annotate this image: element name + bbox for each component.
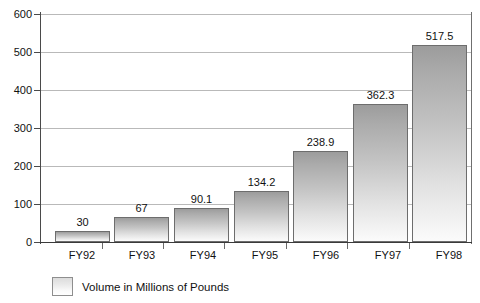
chart-legend: Volume in Millions of Pounds bbox=[52, 277, 229, 296]
y-axis-label-500: 500 bbox=[0, 47, 32, 58]
gridline-500 bbox=[41, 52, 471, 53]
bar-FY93[interactable] bbox=[114, 217, 169, 243]
y-axis-label-200: 200 bbox=[0, 161, 32, 172]
x-axis-label-FY98: FY98 bbox=[421, 249, 477, 261]
bar-value-FY93: 67 bbox=[114, 203, 169, 214]
bar-FY94[interactable] bbox=[174, 208, 229, 242]
y-axis-label-100: 100 bbox=[0, 199, 32, 210]
x-axis-label-FY94: FY94 bbox=[175, 249, 231, 261]
y-axis-label-0: 0 bbox=[0, 237, 32, 248]
legend-swatch-volume bbox=[52, 277, 73, 296]
bar-FY95[interactable] bbox=[234, 191, 289, 242]
y-axis-line bbox=[40, 12, 41, 244]
y-axis-label-400: 400 bbox=[0, 85, 32, 96]
x-axis-label-FY97: FY97 bbox=[360, 249, 416, 261]
x-axis-label-FY96: FY96 bbox=[298, 249, 354, 261]
plot-area bbox=[41, 14, 471, 242]
bar-value-FY97: 362.3 bbox=[353, 90, 408, 101]
x-axis-label-FY92: FY92 bbox=[54, 249, 110, 261]
legend-label-volume: Volume in Millions of Pounds bbox=[82, 281, 229, 293]
y-axis-line-right bbox=[471, 12, 472, 244]
gridline-600 bbox=[41, 14, 471, 15]
bar-FY96[interactable] bbox=[293, 151, 348, 242]
bar-chart: 600 500 400 300 200 100 0 30 67 90.1 134… bbox=[0, 0, 480, 303]
y-axis-label-300: 300 bbox=[0, 123, 32, 134]
x-axis-line bbox=[40, 242, 472, 243]
y-axis-label-600: 600 bbox=[0, 9, 32, 20]
bar-FY98[interactable] bbox=[412, 45, 467, 242]
bar-value-FY95: 134.2 bbox=[234, 177, 289, 188]
bar-FY97[interactable] bbox=[353, 104, 408, 242]
x-axis-label-FY93: FY93 bbox=[114, 249, 170, 261]
bar-value-FY94: 90.1 bbox=[174, 194, 229, 205]
bar-FY92[interactable] bbox=[55, 231, 110, 242]
bar-value-FY92: 30 bbox=[55, 217, 110, 228]
bar-value-FY96: 238.9 bbox=[293, 137, 348, 148]
bar-value-FY98: 517.5 bbox=[412, 31, 467, 42]
x-axis-label-FY95: FY95 bbox=[237, 249, 293, 261]
